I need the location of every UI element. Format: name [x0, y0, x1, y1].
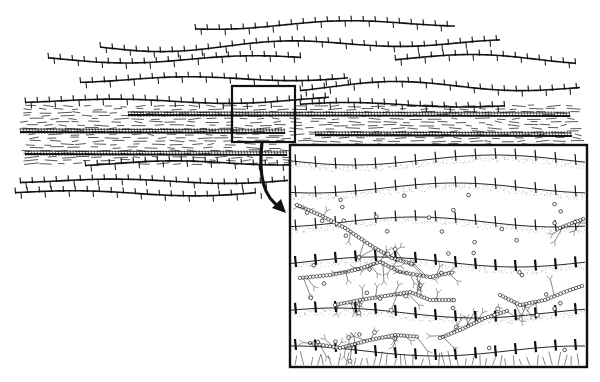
- stratum-upper-layer-3: [48, 51, 301, 69]
- illustration-canvas: [0, 0, 600, 382]
- stratum-upper-layer-1: [195, 16, 455, 36]
- strata-illustration: [0, 0, 600, 382]
- stratum-lower-layer-3: [15, 186, 262, 202]
- mat-layer-mat-3: [315, 131, 572, 137]
- stratum-upper-layer-6: [300, 76, 580, 96]
- stratum-lower-layer-1: [85, 156, 290, 172]
- stratum-lower-layer-2: [20, 174, 291, 189]
- magnified-inset: [290, 145, 592, 367]
- mat-layer-mat-4: [25, 150, 287, 156]
- stratum-upper-layer-7: [25, 93, 329, 110]
- mat-layer-mat-1: [128, 111, 570, 117]
- stratum-upper-layer-8: [300, 97, 505, 112]
- stratum-upper-layer-4: [395, 50, 576, 69]
- stratum-upper-layer-5: [80, 72, 351, 89]
